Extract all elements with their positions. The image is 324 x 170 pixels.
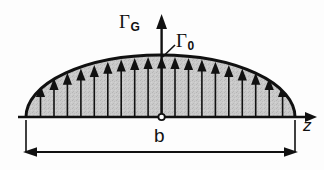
span-label: b	[154, 126, 165, 145]
span-arrowhead-left	[23, 147, 37, 157]
gamma-g-label: ΓG	[119, 12, 140, 33]
z-axis-label: z	[303, 117, 312, 134]
origin-marker	[158, 114, 164, 120]
gamma-g-axis-arrowhead	[156, 14, 167, 29]
circulation-distribution-figure: ΓG Γ0 z b	[0, 0, 324, 170]
span-arrowhead-right	[284, 147, 298, 157]
gamma-g-subscript: G	[130, 20, 139, 34]
gamma-0-subscript: 0	[187, 39, 194, 53]
gamma-g-symbol: Γ	[119, 11, 130, 32]
gamma-0-symbol: Γ	[176, 30, 187, 51]
gamma-0-label: Γ0	[176, 31, 194, 52]
